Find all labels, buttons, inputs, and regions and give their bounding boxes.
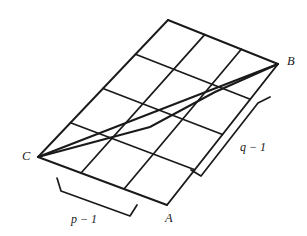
vertex-label-a: A <box>165 212 173 225</box>
measure-label-p-minus-1: p − 1 <box>71 213 97 225</box>
vertex-label-b: B <box>287 55 295 68</box>
q-bracket <box>191 97 270 176</box>
grid-lines-columns <box>81 35 241 189</box>
figure-root: A B C p − 1 q − 1 <box>0 0 307 236</box>
parallelogram-outline <box>38 20 278 205</box>
p-bracket-path <box>57 178 137 216</box>
q-bracket-path <box>191 97 270 176</box>
measure-label-q-minus-1: q − 1 <box>240 141 266 153</box>
lattice-diagram-svg <box>0 0 307 236</box>
p-bracket <box>57 178 137 216</box>
vertex-label-c: C <box>22 150 30 163</box>
